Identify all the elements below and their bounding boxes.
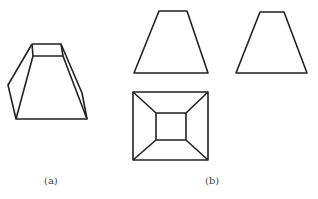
label-b: (b) — [205, 175, 219, 186]
label-a: (a) — [44, 175, 58, 186]
side-view-trapezoid — [236, 12, 307, 73]
top-view-squares — [133, 92, 208, 160]
figure-canvas — [0, 0, 318, 199]
front-view-trapezoid — [134, 11, 208, 73]
frustum-perspective-view — [8, 44, 87, 119]
